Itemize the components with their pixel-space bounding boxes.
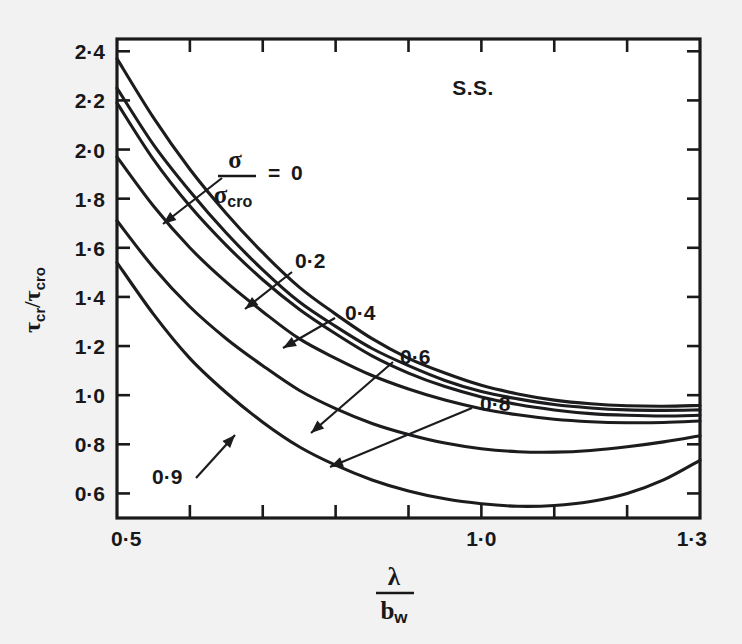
y-title-tau-den: τ	[19, 290, 45, 301]
x-title-lambda: λ	[388, 563, 401, 590]
x-tick-label: 0·5	[111, 527, 142, 550]
x-title-b: b	[380, 597, 394, 624]
y-tick-label: 2·4	[75, 40, 106, 63]
y-title-tau-den-sub: cro	[31, 267, 48, 290]
curve-label-0-8: 0·8	[480, 392, 511, 415]
plot-background	[117, 39, 700, 518]
legend-equals: =	[268, 161, 280, 184]
curve-label-0-6: 0·6	[400, 345, 430, 368]
legend-sigma-den: σ	[214, 181, 228, 208]
curve-label-0: 0	[291, 161, 303, 184]
x-title-b-sub: w	[393, 608, 408, 627]
y-tick-label: 1·0	[75, 384, 105, 407]
ss-annotation: S.S.	[452, 76, 494, 99]
x-tick-label: 1·0	[466, 527, 496, 550]
curve-label-0-2: 0·2	[295, 249, 325, 272]
y-tick-label: 1·4	[75, 286, 106, 309]
curve-label-0-9: 0·9	[152, 465, 182, 488]
chart-svg: 0·60·81·01·21·41·61·82·02·22·4 0·51·01·3…	[0, 0, 742, 644]
y-title-tau-num: τ	[19, 322, 45, 333]
y-tick-label: 1·6	[75, 237, 105, 260]
figure-container: 0·60·81·01·21·41·61·82·02·22·4 0·51·01·3…	[0, 0, 742, 644]
legend-sigma-num: σ	[228, 146, 242, 173]
y-tick-label: 0·8	[75, 433, 106, 456]
y-tick-label: 0·6	[75, 482, 105, 505]
y-tick-label: 2·0	[75, 139, 105, 162]
y-tick-label: 1·8	[75, 188, 106, 211]
legend-sigma-den-sub: cro	[227, 193, 252, 210]
y-title-tau-num-sub: cr	[31, 308, 48, 322]
y-tick-label: 2·2	[75, 89, 105, 112]
x-tick-label: 1·3	[677, 527, 707, 550]
curve-label-0-4: 0·4	[345, 301, 376, 324]
y-tick-label: 1·2	[75, 335, 105, 358]
